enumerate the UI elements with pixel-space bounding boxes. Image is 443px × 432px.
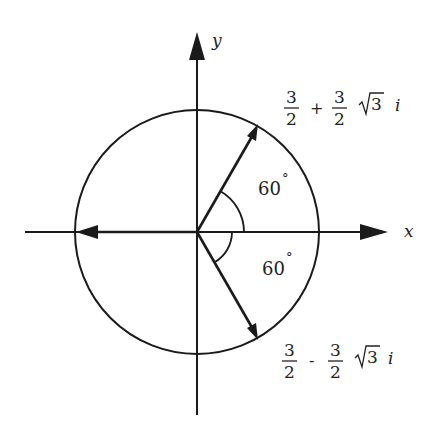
svg-text:60: 60 bbox=[258, 178, 281, 199]
svg-text:3: 3 bbox=[284, 340, 295, 360]
svg-text:3: 3 bbox=[330, 340, 341, 360]
svg-text:2: 2 bbox=[330, 362, 341, 382]
label-upper-complex: 3 2 + 3 2 3 i bbox=[284, 87, 400, 129]
svg-text:3: 3 bbox=[334, 87, 345, 107]
arrowhead-icon bbox=[247, 323, 258, 340]
vector-upper bbox=[197, 124, 258, 232]
svg-text:°: ° bbox=[282, 171, 289, 186]
x-axis-arrow-icon bbox=[360, 224, 388, 240]
svg-text:3: 3 bbox=[371, 94, 382, 114]
x-axis-label: x bbox=[404, 221, 414, 241]
svg-text:3: 3 bbox=[367, 347, 378, 367]
svg-text:i: i bbox=[388, 348, 393, 368]
vector-left bbox=[76, 225, 197, 239]
svg-text:2: 2 bbox=[334, 109, 345, 129]
angle-label-lower: 60 ° bbox=[262, 250, 293, 279]
arrowhead-icon bbox=[76, 225, 98, 239]
complex-plane-diagram: y x 60 ° 60 ° 3 2 + 3 2 3 i 3 2 - 3 2 3 … bbox=[0, 0, 443, 432]
svg-text:°: ° bbox=[286, 250, 293, 265]
y-axis-label: y bbox=[211, 30, 222, 50]
y-axis-arrow-icon bbox=[189, 32, 205, 60]
svg-text:+: + bbox=[310, 99, 323, 118]
svg-text:60: 60 bbox=[262, 258, 285, 279]
angle-label-upper: 60 ° bbox=[258, 171, 289, 199]
angle-arc-lower bbox=[215, 232, 233, 262]
angle-arc-upper bbox=[221, 191, 245, 232]
svg-text:-: - bbox=[309, 351, 314, 370]
label-lower-complex: 3 2 - 3 2 3 i bbox=[282, 340, 393, 382]
svg-text:i: i bbox=[395, 95, 400, 115]
svg-text:3: 3 bbox=[286, 87, 297, 107]
svg-text:2: 2 bbox=[286, 109, 297, 129]
svg-text:2: 2 bbox=[284, 362, 295, 382]
arrowhead-icon bbox=[247, 124, 258, 141]
